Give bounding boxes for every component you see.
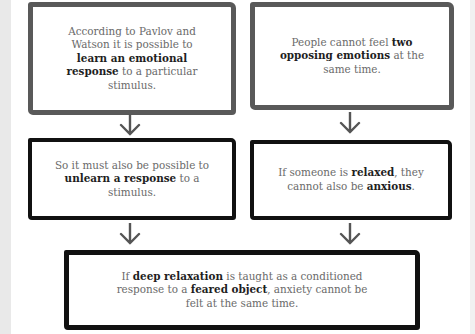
premise-1-text: According to Pavlov and Watson it is pos… [33, 25, 231, 93]
arrow-down-icon [118, 114, 142, 136]
body-text: According to Pavlov and Watson it is pos… [68, 25, 196, 51]
body-text: to a particular stimulus. [108, 65, 198, 91]
left-margin-strip [0, 0, 11, 334]
emphasis-text: unlearn a response [65, 172, 177, 184]
inference-box-2: If someone is relaxed, they cannot also … [250, 140, 452, 220]
body-text: If [121, 270, 132, 282]
body-text: So it must also be possible to [55, 159, 209, 171]
premise-box-2: People cannot feel two opposing emotions… [250, 2, 454, 110]
premise-box-1: According to Pavlov and Watson it is pos… [28, 2, 236, 115]
arrow-down-icon [338, 223, 362, 245]
arrow-down-icon [118, 223, 142, 245]
premise-2-text: People cannot feel two opposing emotions… [255, 36, 449, 77]
arrow-down-icon [338, 112, 362, 134]
body-text: People cannot feel [292, 36, 392, 48]
emphasis-text: anxious [367, 180, 412, 192]
emphasis-text: deep relaxation [133, 270, 223, 282]
inference-box-1: So it must also be possible to unlearn a… [28, 138, 236, 220]
emphasis-text: feared object [191, 283, 267, 295]
body-text: . [412, 180, 415, 192]
conclusion-text: If deep relaxation is taught as a condit… [69, 270, 415, 311]
inference-2-text: If someone is relaxed, they cannot also … [254, 166, 448, 193]
body-text: If someone is [278, 166, 351, 178]
conclusion-box: If deep relaxation is taught as a condit… [64, 250, 420, 330]
inference-1-text: So it must also be possible to unlearn a… [32, 159, 232, 200]
emphasis-text: relaxed [351, 166, 394, 178]
right-margin-strip [470, 0, 475, 334]
